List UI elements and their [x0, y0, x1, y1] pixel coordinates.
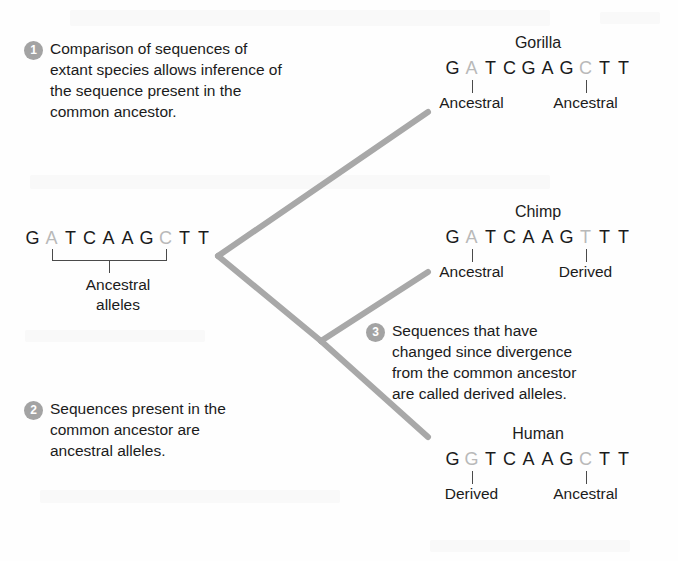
taxon-human-annotations: DerivedAncestral — [438, 485, 638, 506]
gorilla-base-5: G — [519, 58, 538, 79]
allele-label: Ancestral — [553, 485, 618, 503]
human-base-6: A — [538, 449, 557, 470]
chimp-base-10: T — [614, 227, 633, 248]
gorilla-base-8: C — [576, 58, 595, 79]
taxon-human-sequence-letters: GGTCAAGCTT — [438, 449, 638, 470]
chimp-base-8: T — [576, 227, 595, 248]
taxon-gorilla-annotations: AncestralAncestral — [438, 94, 638, 115]
taxon-chimp-name: Chimp — [438, 203, 638, 221]
human-base-9: T — [595, 449, 614, 470]
allele-label: Ancestral — [439, 263, 504, 281]
tick-mark — [472, 249, 473, 262]
taxon-human-name: Human — [438, 425, 638, 443]
taxon-human-group: Human GGTCAAGCTT DerivedAncestral — [438, 425, 638, 506]
chimp-base-3: T — [481, 227, 500, 248]
bracket-stem — [109, 260, 110, 273]
human-base-7: G — [557, 449, 576, 470]
human-base-5: A — [519, 449, 538, 470]
callout-1-badge: 1 — [24, 41, 43, 60]
callout-2: 2 Sequences present in the common ancest… — [24, 398, 324, 461]
ancestor-base-6: A — [118, 228, 137, 249]
taxon-chimp-sequence-letters: GATCAAGTTT — [438, 227, 638, 248]
human-base-8: C — [576, 449, 595, 470]
tick-mark — [586, 471, 587, 484]
chimp-base-4: C — [500, 227, 519, 248]
tick-mark — [472, 80, 473, 93]
allele-label: Ancestral — [439, 94, 504, 112]
gorilla-base-1: G — [443, 58, 462, 79]
taxon-gorilla-name: Gorilla — [438, 34, 638, 52]
human-base-2: G — [462, 449, 481, 470]
ancestor-base-10: T — [194, 228, 213, 249]
tick-mark — [586, 80, 587, 93]
gorilla-base-2: A — [462, 58, 481, 79]
callout-3-text: Sequences that have changed since diverg… — [392, 320, 576, 404]
ancestor-bracket — [18, 249, 218, 275]
chimp-base-6: A — [538, 227, 557, 248]
branch-root-to-gorilla — [218, 112, 428, 256]
human-base-3: T — [481, 449, 500, 470]
gorilla-base-10: T — [614, 58, 633, 79]
figure-canvas: 1 Comparison of sequences of extant spec… — [0, 0, 678, 561]
gorilla-base-4: C — [500, 58, 519, 79]
ancestor-base-2: A — [42, 228, 61, 249]
ancestor-base-3: T — [61, 228, 80, 249]
taxon-chimp-group: Chimp GATCAAGTTT AncestralDerived — [438, 203, 638, 284]
tick-mark — [586, 249, 587, 262]
taxon-chimp-ticks — [438, 248, 638, 263]
taxon-gorilla-ticks — [438, 79, 638, 94]
ancestor-sequence-letters: GATCAAGCTT — [18, 228, 218, 249]
human-base-1: G — [443, 449, 462, 470]
ancestor-base-7: G — [137, 228, 156, 249]
ancestor-base-4: C — [80, 228, 99, 249]
callout-2-text: Sequences present in the common ancestor… — [50, 398, 226, 461]
taxon-gorilla-sequence-letters: GATCGAGCTT — [438, 58, 638, 79]
gorilla-base-7: G — [557, 58, 576, 79]
callout-2-badge: 2 — [24, 401, 43, 420]
callout-3: 3 Sequences that have changed since dive… — [366, 320, 666, 404]
human-base-10: T — [614, 449, 633, 470]
callout-1: 1 Comparison of sequences of extant spec… — [24, 38, 324, 122]
chimp-base-9: T — [595, 227, 614, 248]
allele-label: Ancestral — [553, 94, 618, 112]
allele-label: Derived — [445, 485, 498, 503]
bracket-right-arm — [166, 249, 167, 261]
chimp-base-7: G — [557, 227, 576, 248]
ancestor-bracket-label: Ancestral alleles — [18, 275, 218, 315]
gorilla-base-3: T — [481, 58, 500, 79]
taxon-gorilla-group: Gorilla GATCGAGCTT AncestralAncestral — [438, 34, 638, 115]
callout-3-badge: 3 — [366, 323, 385, 342]
ancestor-base-1: G — [23, 228, 42, 249]
ancestor-base-9: T — [175, 228, 194, 249]
callout-1-text: Comparison of sequences of extant specie… — [50, 38, 282, 122]
taxon-chimp-annotations: AncestralDerived — [438, 263, 638, 284]
tick-mark — [472, 471, 473, 484]
chimp-base-1: G — [443, 227, 462, 248]
allele-label: Derived — [559, 263, 612, 281]
gorilla-base-6: A — [538, 58, 557, 79]
human-base-4: C — [500, 449, 519, 470]
taxon-human-ticks — [438, 470, 638, 485]
gorilla-base-9: T — [595, 58, 614, 79]
branch-root-to-node — [218, 256, 321, 341]
ancestor-base-5: A — [99, 228, 118, 249]
chimp-base-2: A — [462, 227, 481, 248]
chimp-base-5: A — [519, 227, 538, 248]
ancestor-base-8: C — [156, 228, 175, 249]
ancestor-sequence-group: GATCAAGCTT Ancestral alleles — [18, 228, 218, 315]
